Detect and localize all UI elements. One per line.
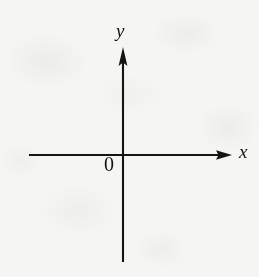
- coordinate-axes-figure: y x 0: [0, 0, 259, 277]
- axes-drawing: [0, 0, 259, 277]
- x-axis-label: x: [239, 142, 247, 161]
- y-axis-label: y: [116, 21, 124, 40]
- origin-label: 0: [104, 154, 114, 174]
